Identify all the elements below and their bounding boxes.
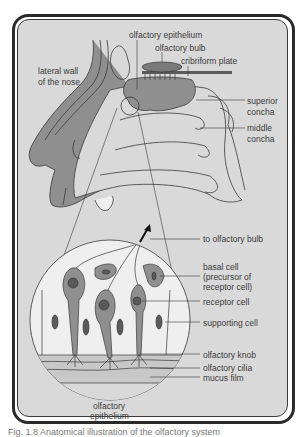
label-to-olfactory-bulb: to olfactory bulb bbox=[203, 234, 263, 244]
label-superior-concha-1: superior bbox=[247, 96, 278, 106]
label-olfactory-epithelium: olfactory epithelium bbox=[129, 30, 202, 40]
label-lateral-wall-1: lateral wall bbox=[38, 66, 78, 76]
figure-caption: Fig. 1.8 Anatomical illustration of the … bbox=[8, 427, 220, 437]
label-middle-concha-1: middle bbox=[247, 123, 272, 133]
label-supporting-cell: supporting cell bbox=[203, 318, 258, 328]
label-olfactory-knob: olfactory knob bbox=[203, 350, 256, 360]
label-olfactory-bulb: olfactory bulb bbox=[155, 43, 206, 53]
olfactory-bulb bbox=[142, 62, 182, 72]
label-lateral-wall-2: of the nose bbox=[38, 77, 80, 87]
label-basal-cell-3: receptor cell) bbox=[203, 282, 252, 292]
label-superior-concha-2: concha bbox=[247, 107, 274, 117]
label-olfactory-epithelium-bottom-1: olfactory bbox=[93, 401, 125, 411]
label-mucus-film: mucus film bbox=[203, 373, 244, 383]
label-basal-cell-2: (precursor of bbox=[203, 272, 251, 282]
label-cribriform-plate: cribriform plate bbox=[181, 56, 237, 66]
label-receptor-cell: receptor cell bbox=[203, 297, 249, 307]
label-basal-cell-1: basal cell bbox=[203, 262, 238, 272]
label-olfactory-epithelium-bottom-2: epithelium bbox=[90, 411, 129, 421]
label-olfactory-cilia: olfactory cilia bbox=[203, 363, 252, 373]
epithelium-magnified bbox=[30, 240, 190, 403]
label-middle-concha-2: concha bbox=[247, 134, 274, 144]
